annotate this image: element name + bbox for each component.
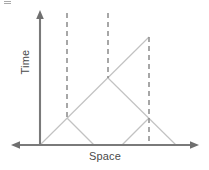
x-axis-label: Space <box>70 150 140 162</box>
ray-event3-down-left <box>122 118 149 145</box>
diagram-canvas <box>0 0 209 170</box>
worldlines <box>67 13 149 145</box>
y-axis-arrowhead <box>36 10 44 19</box>
spacetime-diagram: Time Space <box>0 0 209 170</box>
axes <box>11 10 199 149</box>
ray-origin-to-apex <box>40 37 149 145</box>
ray-event1-down-right <box>67 118 94 145</box>
x-axis-arrowhead-left <box>11 141 20 149</box>
y-axis-label: Time <box>19 32 31 92</box>
ray-event2-down-right <box>108 78 176 145</box>
x-axis-arrowhead-right <box>190 141 199 149</box>
